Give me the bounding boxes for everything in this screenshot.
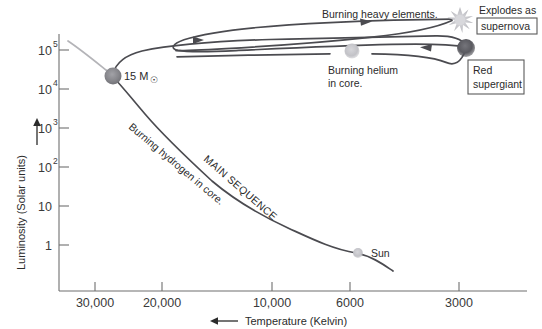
x-tick-10000: 10,000 (253, 296, 291, 310)
x-tick-labels: 30,000 20,000 10,000 6000 3000 (76, 296, 473, 310)
hr-diagram-canvas: 10 5 10 4 10 3 10 2 10 1 30,000 20,000 1… (0, 0, 542, 329)
y-axis-title-group: Luminosity (Solar units) (15, 118, 41, 270)
track-main-sequence (113, 77, 393, 271)
y-tick-1e4-base: 10 (38, 83, 52, 97)
burning-heavy-elements-label: Burning heavy elements. (322, 8, 438, 20)
burning-helium-label-line1: Burning helium (328, 64, 398, 76)
track-upper-main-sequence-faint (68, 41, 113, 76)
x-axis-title-group: Temperature (Kelvin) (210, 315, 347, 327)
supernova-label: supernova (481, 20, 530, 32)
fifteen-solar-mass-marker-dot (105, 68, 122, 85)
y-tick-1e3-base: 10 (38, 122, 52, 136)
y-tick-10: 10 (38, 200, 52, 214)
x-axis-arrow-icon (210, 317, 238, 325)
mass-marker-sun-subscript: ☉ (150, 75, 158, 85)
x-tick-30000: 30,000 (76, 296, 114, 310)
annotations: 15 M ☉ Burning helium in core. Burning h… (124, 4, 537, 259)
burning-helium-marker-dot (345, 44, 360, 59)
y-axis-title: Luminosity (Solar units) (15, 155, 27, 270)
y-tick-1e3-exp: 3 (53, 117, 58, 127)
x-axis-title: Temperature (Kelvin) (245, 315, 347, 327)
axis-x (59, 282, 527, 291)
y-tick-1e5-exp: 5 (53, 39, 58, 49)
y-tick-1e2-exp: 2 (53, 156, 58, 166)
burning-helium-label-line2: in core. (328, 77, 362, 89)
hr-diagram-figure: 10 5 10 4 10 3 10 2 10 1 30,000 20,000 1… (0, 0, 542, 329)
y-tick-1e4-exp: 4 (53, 78, 58, 88)
mass-marker-label: 15 M (124, 70, 148, 82)
y-tick-1: 1 (45, 239, 52, 253)
curve-labels: Burning hydrogen in core. MAIN SEQUENCE (127, 120, 280, 222)
arrowhead-return-left (277, 46, 289, 54)
x-tick-6000: 6000 (336, 296, 364, 310)
track-helium-burning-right (372, 52, 465, 64)
axis-y (59, 34, 69, 291)
y-tick-labels: 10 5 10 4 10 3 10 2 10 1 (38, 39, 58, 253)
x-tick-3000: 3000 (445, 296, 473, 310)
arrowhead-inward-left (420, 44, 432, 52)
sun-label: Sun (371, 247, 390, 259)
sun-marker-dot (353, 248, 363, 258)
y-tick-1e5-base: 10 (38, 44, 52, 58)
evolution-track (68, 18, 468, 271)
red-supergiant-marker-dot (457, 39, 475, 57)
x-tick-20000: 20,000 (143, 296, 181, 310)
y-tick-1e2-base: 10 (38, 161, 52, 175)
track-helium-burning-left (177, 54, 330, 57)
red-supergiant-label-line1: Red (473, 64, 492, 76)
explodes-as-label: Explodes as (479, 4, 536, 16)
red-supergiant-label-line2: supergiant (473, 78, 522, 90)
